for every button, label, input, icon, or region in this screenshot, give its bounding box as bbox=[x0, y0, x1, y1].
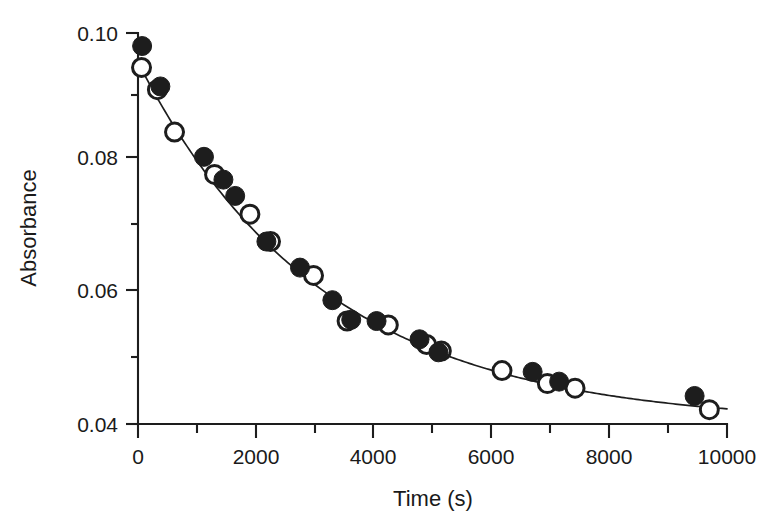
data-point bbox=[257, 232, 276, 251]
plot-background bbox=[0, 0, 769, 522]
y-ticklabel-1: 0.08 bbox=[77, 146, 118, 169]
data-point bbox=[166, 123, 184, 141]
data-point bbox=[429, 343, 448, 362]
absorbance-vs-time-plot: 0.10 0.08 0.06 0.04 0 2000 4000 6000 800… bbox=[0, 0, 769, 522]
data-point bbox=[410, 330, 429, 349]
data-point bbox=[700, 401, 718, 419]
data-point bbox=[523, 362, 542, 381]
x-ticklabel-4: 8000 bbox=[586, 445, 633, 468]
data-point bbox=[342, 310, 361, 329]
data-point bbox=[685, 386, 704, 405]
x-ticklabel-5: 10000 bbox=[698, 445, 756, 468]
data-point bbox=[194, 147, 213, 166]
data-point bbox=[226, 186, 245, 205]
data-point bbox=[290, 258, 309, 277]
y-axis-title: Absorbance bbox=[16, 169, 41, 286]
data-point bbox=[550, 372, 569, 391]
data-point bbox=[133, 37, 152, 56]
x-ticklabel-2: 4000 bbox=[350, 445, 397, 468]
x-axis-title: Time (s) bbox=[393, 486, 473, 511]
data-point bbox=[493, 362, 511, 380]
data-point bbox=[241, 205, 259, 223]
data-point bbox=[214, 170, 233, 189]
y-ticklabel-3: 0.04 bbox=[77, 413, 118, 436]
data-point bbox=[151, 77, 170, 96]
y-ticklabel-2: 0.06 bbox=[77, 279, 118, 302]
x-ticklabel-3: 6000 bbox=[468, 445, 515, 468]
x-ticklabel-0: 0 bbox=[132, 445, 144, 468]
data-point bbox=[323, 291, 342, 310]
data-point bbox=[133, 59, 151, 77]
x-ticklabel-1: 2000 bbox=[233, 445, 280, 468]
chart-figure: 0.10 0.08 0.06 0.04 0 2000 4000 6000 800… bbox=[0, 0, 769, 522]
data-point bbox=[367, 312, 386, 331]
y-ticklabel-0: 0.10 bbox=[77, 22, 118, 45]
